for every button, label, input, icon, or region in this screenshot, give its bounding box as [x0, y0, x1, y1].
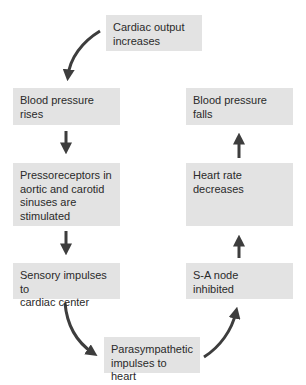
node-blood-pressure-falls: Blood pressure falls: [186, 88, 293, 125]
node-sensory-impulses: Sensory impulses to cardiac center: [13, 263, 120, 299]
arrow-parasympathetic-to-sa-node: [204, 312, 236, 357]
arrow-cardiac-to-bp-rises: [68, 31, 100, 76]
node-pressoreceptors: Pressoreceptors in aortic and carotid si…: [13, 163, 120, 226]
node-heart-rate-decreases: Heart rate decreases: [186, 163, 293, 226]
arrow-sensory-to-parasympathetic: [65, 303, 93, 353]
node-parasympathetic-impulses: Parasympathetic impulses to heart: [104, 337, 200, 373]
node-cardiac-output: Cardiac output increases: [106, 15, 202, 51]
node-blood-pressure-rises: Blood pressure rises: [13, 88, 120, 125]
node-sa-node-inhibited: S-A node inhibited: [186, 263, 293, 299]
